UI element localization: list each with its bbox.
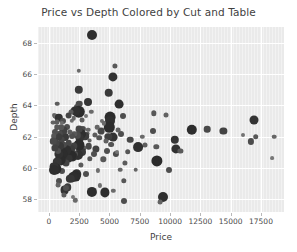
scatter-point (204, 126, 211, 133)
minor-gridline (41, 27, 42, 212)
x-tick-mark (79, 213, 80, 216)
minor-gridline (209, 27, 210, 212)
minor-gridline (119, 27, 120, 212)
scatter-point (111, 189, 115, 193)
minor-gridline (155, 27, 156, 212)
minor-gridline (218, 27, 219, 212)
minor-gridline (89, 27, 90, 212)
scatter-point (84, 98, 92, 106)
x-axis-label: Price (38, 232, 284, 242)
minor-gridline (245, 27, 246, 212)
minor-gridline (269, 27, 270, 212)
scatter-point (248, 138, 254, 144)
gridline-vertical (170, 27, 171, 212)
minor-gridline (215, 27, 216, 212)
y-tick-mark (34, 74, 37, 75)
y-tick-label: 60 (12, 164, 32, 173)
x-tick-label: 7500 (130, 217, 149, 226)
scatter-point (55, 102, 60, 107)
minor-gridline (167, 27, 168, 212)
minor-gridline (50, 27, 51, 212)
x-tick-label: 12500 (188, 217, 212, 226)
y-tick-mark (34, 105, 37, 106)
x-tick-mark (140, 213, 141, 216)
scatter-point (74, 86, 82, 94)
scatter-point (120, 113, 126, 119)
y-tick-mark (34, 199, 37, 200)
minor-gridline (224, 27, 225, 212)
minor-gridline (44, 27, 45, 212)
y-tick-label: 68 (12, 38, 32, 47)
scatter-point (84, 114, 88, 118)
scatter-point (118, 167, 123, 172)
scatter-point (133, 142, 143, 152)
gridline-vertical (49, 27, 50, 212)
minor-gridline (149, 27, 150, 212)
x-tick-label: 17500 (249, 217, 273, 226)
minor-gridline (221, 27, 222, 212)
minor-gridline (281, 27, 282, 212)
scatter-point (125, 149, 131, 155)
minor-gridline (242, 27, 243, 212)
scatter-point (271, 156, 275, 160)
minor-gridline (143, 27, 144, 212)
minor-gridline (158, 27, 159, 212)
minor-gridline (122, 27, 123, 212)
x-tick-label: 10000 (158, 217, 182, 226)
minor-gridline (134, 27, 135, 212)
minor-gridline (131, 27, 132, 212)
scatter-point (100, 157, 105, 162)
x-tick-label: 15000 (219, 217, 243, 226)
minor-gridline (95, 27, 96, 212)
scatter-point (121, 198, 127, 204)
scatter-point (158, 199, 163, 204)
gridline-vertical (140, 27, 141, 212)
minor-gridline (185, 27, 186, 212)
scatter-point (166, 167, 172, 173)
minor-gridline (206, 27, 207, 212)
minor-gridline (47, 27, 48, 212)
minor-gridline (197, 27, 198, 212)
minor-gridline (203, 27, 204, 212)
y-axis-label: Depth (9, 87, 19, 147)
minor-gridline (266, 27, 267, 212)
minor-gridline (272, 27, 273, 212)
gridline-vertical (231, 27, 232, 212)
scatter-point (58, 125, 64, 131)
minor-gridline (233, 27, 234, 212)
minor-gridline (92, 27, 93, 212)
minor-gridline (38, 27, 39, 212)
scatter-point (60, 121, 64, 125)
minor-gridline (275, 27, 276, 212)
minor-gridline (116, 27, 117, 212)
scatter-point (133, 167, 138, 172)
y-tick-label: 66 (12, 70, 32, 79)
scatter-point (104, 148, 110, 154)
scatter-point (272, 134, 277, 139)
minor-gridline (86, 27, 87, 212)
gridline-horizontal (38, 43, 284, 44)
x-tick-label: 2500 (70, 217, 89, 226)
scatter-point (105, 89, 114, 98)
y-tick-label: 58 (12, 195, 32, 204)
scatter-point (171, 136, 179, 144)
scatter-point (71, 195, 75, 199)
x-tick-label: 5000 (100, 217, 119, 226)
scatter-point (86, 127, 91, 132)
scatter-point (187, 124, 197, 134)
scatter-point (127, 137, 134, 144)
x-tick-mark (170, 213, 171, 216)
gridline-horizontal (38, 74, 284, 75)
scatter-point (116, 128, 121, 133)
scatter-point (63, 185, 69, 191)
y-tick-mark (34, 43, 37, 44)
scatter-point (142, 142, 147, 147)
minor-gridline (176, 27, 177, 212)
scatter-point (103, 139, 108, 144)
minor-gridline (263, 27, 264, 212)
minor-gridline (77, 27, 78, 212)
x-tick-mark (200, 213, 201, 216)
scatter-point (54, 119, 59, 124)
minor-gridline (212, 27, 213, 212)
scatter-point (164, 112, 169, 117)
